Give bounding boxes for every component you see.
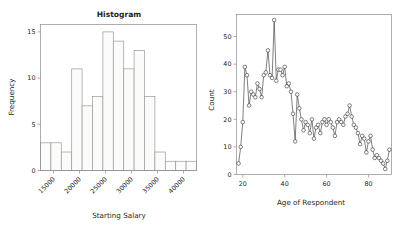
agecount-data-point [241,120,245,124]
histogram-bar [103,32,113,171]
agecount-series-line [239,20,390,169]
agecount-data-point [371,148,375,152]
agecount-data-point [312,137,316,141]
histogram-bar [93,97,103,171]
agecount-series-markers [237,18,391,171]
agecount-data-point [287,82,291,86]
agecount-data-point [247,104,251,108]
histogram-bar [176,161,186,170]
agecount-data-point [325,123,329,127]
agecount-data-point [350,115,354,119]
agecount-data-point [254,95,258,99]
histogram-bar [124,69,134,171]
histogram-svg: Histogram Starting Salary Frequency 0510… [0,0,202,226]
agecount-ytick-label: 40 [223,60,231,68]
agecount-data-point [316,123,320,127]
histogram-xtick-label: 40000 [167,175,187,195]
histogram-ytick-label: 15 [27,28,35,36]
agecount-data-point [237,162,241,166]
agecount-data-point [306,123,310,127]
agecount-data-point [318,131,322,135]
histogram-bar [72,69,82,171]
age-count-svg: Age of Respondent Count 01020304050 2040… [201,0,403,226]
agecount-data-point [383,167,387,171]
histogram-bar [145,97,155,171]
agecount-plot-frame [237,15,392,175]
agecount-data-point [295,93,299,97]
agecount-ytick-label: 10 [223,143,231,151]
histogram-bar [82,106,92,171]
histogram-xtick-label: 20000 [63,175,83,195]
agecount-data-point [367,140,371,144]
agecount-data-point [346,112,350,116]
agecount-data-point [239,145,243,149]
agecount-data-point [369,134,373,138]
agecount-data-point [386,159,390,163]
agecount-data-point [308,131,312,135]
agecount-ytick-label: 30 [223,88,231,96]
agecount-data-point [331,126,335,130]
histogram-panel: Histogram Starting Salary Frequency 0510… [0,0,202,226]
agecount-data-point [310,118,314,122]
histogram-bar [113,41,123,170]
histogram-ytick-label: 5 [31,121,35,129]
histogram-bar [61,152,71,170]
agecount-data-point [270,76,274,80]
histogram-bar [165,161,175,170]
agecount-ytick-labels: 01020304050 [223,33,231,179]
histogram-bar [51,143,61,171]
age-count-panel: Age of Respondent Count 01020304050 2040… [201,0,403,226]
histogram-xaxis-title: Starting Salary [92,211,146,220]
histogram-bar [41,143,51,171]
histogram-bars [41,32,197,171]
agecount-data-point [293,140,297,144]
agecount-data-point [356,131,360,135]
histogram-bar [155,152,165,170]
agecount-data-point [291,112,295,116]
agecount-data-point [365,151,369,155]
agecount-data-point [354,126,358,130]
agecount-data-point [348,104,352,108]
agecount-data-point [258,87,262,91]
histogram-xtick-label: 30000 [115,175,135,195]
histogram-bar [134,50,144,170]
agecount-xtick-label: 40 [281,180,289,188]
agecount-data-point [300,118,304,122]
agecount-xtick-label: 20 [239,180,247,188]
agecount-data-point [342,123,346,127]
agecount-data-point [256,82,260,86]
agecount-data-point [302,129,306,133]
histogram-title: Histogram [97,10,142,19]
histogram-ytick-label: 10 [27,74,35,82]
agecount-data-point [260,95,264,99]
agecount-data-point [243,65,247,69]
agecount-ytick-label: 0 [227,171,231,179]
agecount-data-point [329,120,333,124]
figure-container: Histogram Starting Salary Frequency 0510… [0,0,403,226]
histogram-yaxis-title: Frequency [7,78,16,116]
agecount-data-point [289,90,293,94]
agecount-data-point [362,137,366,141]
agecount-ytick-label: 20 [223,116,231,124]
histogram-xtick-label: 25000 [89,175,109,195]
agecount-xaxis-title: Age of Respondent [277,198,345,207]
agecount-ytick-label: 50 [223,33,231,41]
histogram-ytick-labels: 051015 [27,28,35,175]
agecount-data-point [245,73,249,77]
agecount-data-point [388,148,392,152]
agecount-data-point [381,162,385,166]
agecount-data-point [298,106,302,110]
agecount-data-point [279,68,283,72]
histogram-xtick-label: 15000 [37,175,57,195]
agecount-yaxis-title: Count [207,89,216,111]
agecount-data-point [264,71,268,75]
agecount-xtick-label: 80 [364,180,372,188]
agecount-data-point [358,142,362,146]
agecount-xtick-label: 60 [322,180,330,188]
agecount-data-point [272,18,276,22]
agecount-xtick-labels: 20406080 [239,180,373,188]
agecount-data-point [266,49,270,53]
agecount-data-point [333,134,337,138]
agecount-data-point [323,118,327,122]
histogram-bar [186,161,196,170]
